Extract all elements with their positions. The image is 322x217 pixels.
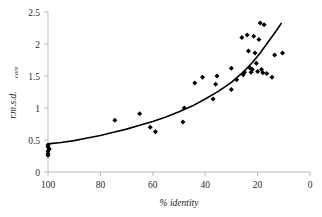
data-point bbox=[254, 61, 259, 66]
y-axis-tick-labels: 0 0.5 1 1.5 2 2.5 bbox=[28, 8, 40, 178]
x-tick-label-40: 40 bbox=[200, 180, 210, 190]
data-point bbox=[229, 66, 234, 71]
x-axis-tick-labels: 100 80 60 40 20 0 bbox=[41, 180, 313, 190]
fit-curve bbox=[48, 24, 281, 144]
y-tick-label-0: 0 bbox=[35, 168, 40, 178]
data-point bbox=[213, 82, 218, 87]
data-point bbox=[245, 33, 250, 38]
data-point bbox=[148, 125, 153, 130]
y-tick-label-1-5: 1.5 bbox=[28, 72, 40, 82]
scatter-points-group bbox=[46, 20, 285, 157]
data-point bbox=[137, 111, 142, 116]
data-point bbox=[200, 75, 205, 80]
data-point bbox=[270, 75, 275, 80]
scatter-plot-svg: 0 0.5 1 1.5 2 2.5 100 80 60 40 20 0 bbox=[0, 0, 322, 217]
x-axis-title: % identity bbox=[160, 198, 200, 208]
data-point bbox=[211, 97, 216, 102]
data-point bbox=[264, 71, 269, 76]
y-axis-title-subscript: core bbox=[12, 67, 19, 78]
data-point bbox=[252, 50, 257, 55]
chart-figure: 0 0.5 1 1.5 2 2.5 100 80 60 40 20 0 bbox=[0, 0, 322, 217]
data-point bbox=[246, 49, 251, 54]
data-point bbox=[112, 118, 117, 123]
x-tick-label-0: 0 bbox=[308, 180, 313, 190]
y-tick-label-0-5: 0.5 bbox=[28, 136, 40, 146]
x-tick-label-60: 60 bbox=[148, 180, 158, 190]
y-axis-title: r.m.s.d. core bbox=[8, 67, 19, 119]
data-point bbox=[214, 74, 219, 79]
data-point bbox=[234, 77, 239, 82]
y-tick-label-1: 1 bbox=[35, 104, 40, 114]
data-point bbox=[272, 52, 277, 57]
data-point bbox=[153, 129, 158, 134]
x-axis-ticks bbox=[48, 172, 310, 176]
x-tick-label-20: 20 bbox=[253, 180, 263, 190]
data-point bbox=[192, 81, 197, 86]
data-point bbox=[239, 35, 244, 40]
data-point bbox=[251, 34, 256, 39]
x-tick-label-80: 80 bbox=[96, 180, 106, 190]
y-tick-label-2-5: 2.5 bbox=[28, 8, 40, 18]
x-tick-label-100: 100 bbox=[41, 180, 56, 190]
data-point bbox=[256, 37, 261, 42]
data-point bbox=[180, 120, 185, 125]
data-point bbox=[229, 87, 234, 92]
y-axis-title-main: r.m.s.d. bbox=[8, 91, 18, 118]
data-point bbox=[280, 50, 285, 55]
y-tick-label-2: 2 bbox=[35, 40, 40, 50]
